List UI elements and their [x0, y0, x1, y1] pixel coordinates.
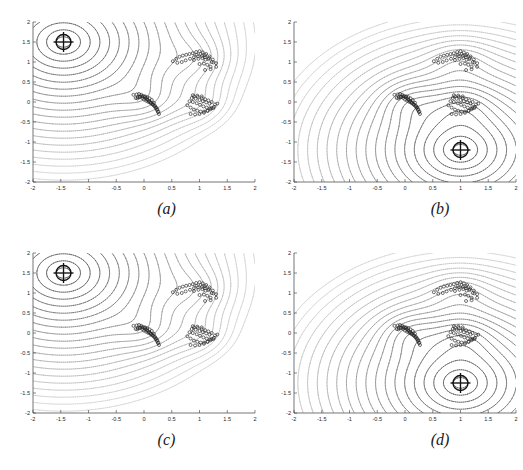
data-point [439, 55, 442, 58]
data-point [436, 57, 439, 60]
data-point [393, 324, 396, 327]
series-spiral-cluster-3 [186, 325, 219, 347]
x-tick-label: 0.5 [429, 185, 437, 191]
data-point [457, 340, 460, 343]
data-point [204, 98, 207, 101]
y-tick-label: 1 [27, 59, 30, 65]
data-point [184, 59, 187, 62]
x-tick-label: -1.5 [317, 416, 327, 422]
x-tick-label: -2 [31, 416, 36, 422]
optimum-marker [451, 373, 471, 393]
data-point [188, 331, 191, 334]
series-spiral-cluster-1 [393, 324, 422, 347]
x-tick-label: 1 [459, 185, 462, 191]
data-point [462, 57, 465, 60]
data-point [195, 333, 198, 336]
optimum-marker [54, 263, 74, 283]
data-point [455, 344, 458, 347]
y-tick-label: -0.5 [281, 119, 291, 125]
series-spiral-cluster-2 [432, 281, 478, 303]
data-point [184, 290, 187, 293]
y-tick-label: 1 [288, 290, 291, 296]
y-tick-label: 0 [288, 330, 291, 336]
data-point [205, 337, 208, 340]
data-point [206, 294, 209, 297]
data-point [450, 344, 453, 347]
y-tick-label: -1 [25, 370, 30, 376]
panel-d-canvas: -2-1.5-1-0.500.511.52-2-1.5-1-0.500.511.… [261, 239, 522, 435]
x-tick-label: -1.5 [317, 185, 327, 191]
axes: -2-1.5-1-0.500.511.52-2-1.5-1-0.500.511.… [20, 19, 256, 191]
data-point [453, 339, 456, 342]
y-tick-label: 2 [27, 19, 30, 25]
data-point [198, 294, 201, 297]
data-point [180, 61, 183, 64]
y-tick-label: 0.5 [22, 310, 30, 316]
data-point [463, 336, 466, 339]
x-tick-label: 1.5 [484, 416, 492, 422]
data-point [176, 61, 179, 64]
data-point [450, 57, 453, 60]
data-point [446, 53, 449, 56]
data-point [455, 113, 458, 116]
panel-c-plot: -2-1.5-1-0.500.511.52-2-1.5-1-0.500.511.… [0, 239, 261, 435]
data-point [467, 63, 470, 66]
data-point [450, 337, 453, 340]
data-point [432, 60, 435, 63]
data-point [453, 108, 456, 111]
data-point-layer [393, 50, 480, 116]
series-spiral-cluster-1 [132, 324, 161, 347]
y-tick-label: 0 [27, 330, 30, 336]
y-tick-label: 2 [288, 250, 291, 256]
contour-lines [294, 22, 516, 182]
y-tick-label: 0.5 [283, 79, 291, 85]
x-tick-label: -1.5 [56, 185, 66, 191]
data-point [449, 284, 452, 287]
panel-a-canvas: -2-1.5-1-0.500.511.52-2-1.5-1-0.500.511.… [0, 8, 261, 204]
data-point [463, 105, 466, 108]
x-tick-label: -0.5 [111, 416, 121, 422]
data-point [171, 60, 174, 63]
y-tick-label: -1 [25, 139, 30, 145]
data-point [449, 100, 452, 103]
data-point [196, 340, 199, 343]
data-point [449, 53, 452, 56]
x-tick-label: -1 [347, 416, 352, 422]
data-point [189, 344, 192, 347]
data-point [202, 105, 205, 108]
figure-page: -2-1.5-1-0.500.511.52-2-1.5-1-0.500.511.… [0, 0, 523, 470]
x-tick-label: 0 [142, 185, 145, 191]
panel-a: -2-1.5-1-0.500.511.52-2-1.5-1-0.500.511.… [0, 8, 261, 239]
data-point [188, 284, 191, 287]
data-point [207, 330, 210, 333]
x-tick-label: 2 [514, 185, 517, 191]
panel-c-caption: (c) [0, 431, 297, 449]
data-point [189, 57, 192, 60]
data-point [462, 288, 465, 291]
data-point [202, 62, 205, 65]
data-point-layer [132, 281, 219, 347]
data-point [445, 59, 448, 62]
data-point [181, 285, 184, 288]
data-point [466, 337, 469, 340]
data-point [204, 69, 207, 72]
y-tick-label: 0.5 [22, 79, 30, 85]
data-point [439, 286, 442, 289]
data-point [194, 344, 197, 347]
data-point [459, 63, 462, 66]
data-point [466, 106, 469, 109]
x-tick-label: -0.5 [372, 185, 382, 191]
data-point [189, 113, 192, 116]
y-tick-label: -1.5 [281, 390, 291, 396]
data-point [449, 331, 452, 334]
x-tick-label: 1 [198, 185, 201, 191]
y-tick-label: 2 [27, 250, 30, 256]
x-tick-label: 1.5 [484, 185, 492, 191]
data-point [468, 99, 471, 102]
x-tick-label: 0.5 [429, 416, 437, 422]
data-point [189, 337, 192, 340]
series-spiral-cluster-1 [393, 93, 422, 116]
data-point [201, 57, 204, 60]
data-point [185, 284, 188, 287]
data-point [206, 63, 209, 66]
